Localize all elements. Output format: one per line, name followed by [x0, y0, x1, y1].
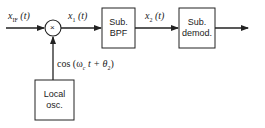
input-signal-arg: (t): [20, 10, 29, 21]
lo-signal-prefix: cos (ω: [57, 58, 83, 69]
mixer-symbol: ×: [50, 23, 55, 33]
lo-signal-label: cos (ωc t + θ2): [57, 59, 114, 73]
lo-label-line2: osc.: [35, 100, 74, 111]
demod-label-line1: Sub.: [179, 17, 215, 28]
mixed-signal-arg: (t): [78, 10, 87, 21]
bpf-label-line2: BPF: [102, 28, 135, 39]
demod-label-line2: demod.: [179, 28, 215, 39]
bpf-block-label: Sub. BPF: [102, 17, 135, 39]
local-osc-block-label: Local osc.: [35, 89, 74, 111]
filtered-signal-subscript: 2: [149, 17, 152, 23]
filtered-signal-arg: (t): [155, 10, 164, 21]
lo-signal-suffix: ): [110, 58, 113, 69]
bpf-label-line1: Sub.: [102, 17, 135, 28]
mixed-signal-subscript: 1: [72, 17, 75, 23]
demod-block-label: Sub. demod.: [179, 17, 215, 39]
filtered-signal-label: x2 (t): [145, 11, 164, 25]
input-signal-subscript: IF: [12, 17, 17, 23]
lo-signal-mid: t + θ: [85, 58, 107, 69]
lo-label-line1: Local: [35, 89, 74, 100]
mixed-signal-label: x1 (t): [68, 11, 87, 25]
input-signal-label: xIF (t): [8, 11, 30, 25]
